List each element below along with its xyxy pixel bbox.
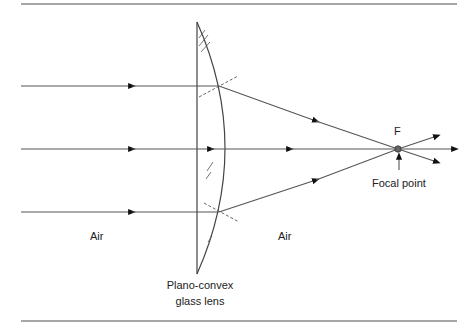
label-lens-line2: glass lens [150,293,250,309]
focal-point-dot [395,146,401,152]
label-focus-f: F [394,125,401,137]
lens-curved-face [197,22,225,274]
label-lens-line1: Plano-convex [150,277,250,293]
lens-hatching [199,30,213,242]
label-focal-point: Focal point [372,177,426,189]
label-lens: Plano-convex glass lens [150,277,250,309]
incident-rays [21,86,398,212]
label-air-left: Air [90,230,103,242]
plano-convex-lens [197,22,225,274]
label-air-right: Air [278,230,291,242]
